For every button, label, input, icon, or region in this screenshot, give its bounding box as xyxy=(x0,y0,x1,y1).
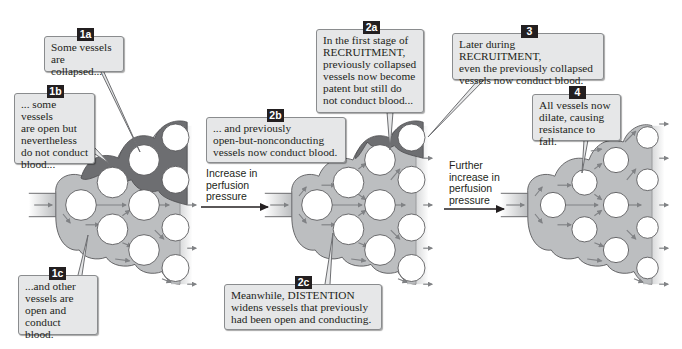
callout-text: All vessels now dilate, causing resistan… xyxy=(539,99,615,147)
callout-badge: 1c xyxy=(49,267,66,280)
transition-label-2: Further increase in perfusion pressure xyxy=(449,160,500,206)
callout-text: Some vessels are collapsed... xyxy=(51,41,118,77)
callout-badge: 4 xyxy=(569,86,586,99)
callout-1c: 1c ...and other vessels are open and con… xyxy=(18,275,98,335)
callout-badge: 2a xyxy=(363,21,380,34)
callout-text: Meanwhile, DISTENTION widens vessels tha… xyxy=(231,289,376,325)
callout-1a: 1a Some vessels are collapsed... xyxy=(44,36,124,72)
callout-badge: 1a xyxy=(77,28,94,41)
callout-text: Later during RECRUITMENT, even the previ… xyxy=(459,38,598,86)
callout-badge: 2b xyxy=(267,109,284,122)
callout-text: In the first stage of RECRUITMENT, previ… xyxy=(323,34,418,106)
transition-label-1: Increase in perfusion pressure xyxy=(206,168,257,203)
callout-badge: 1b xyxy=(47,85,64,98)
callout-2a: 2a In the first stage of RECRUITMENT, pr… xyxy=(316,29,424,113)
callout-badge: 3 xyxy=(521,25,538,38)
callout-3: 3 Later during RECRUITMENT, even the pre… xyxy=(452,33,604,80)
callout-2c: 2c Meanwhile, DISTENTION widens vessels … xyxy=(224,284,382,330)
callout-text: ... some vessels are open but neverthele… xyxy=(21,98,89,170)
callout-text: ... and previously open-but-nonconductin… xyxy=(213,122,340,158)
callout-1b: 1b ... some vessels are open but neverth… xyxy=(14,93,95,164)
callout-2b: 2b ... and previously open-but-nonconduc… xyxy=(206,117,346,163)
callout-badge: 2c xyxy=(295,276,312,289)
callout-text: ...and other vessels are open and conduc… xyxy=(25,280,92,340)
callout-4: 4 All vessels now dilate, causing resist… xyxy=(532,94,621,141)
